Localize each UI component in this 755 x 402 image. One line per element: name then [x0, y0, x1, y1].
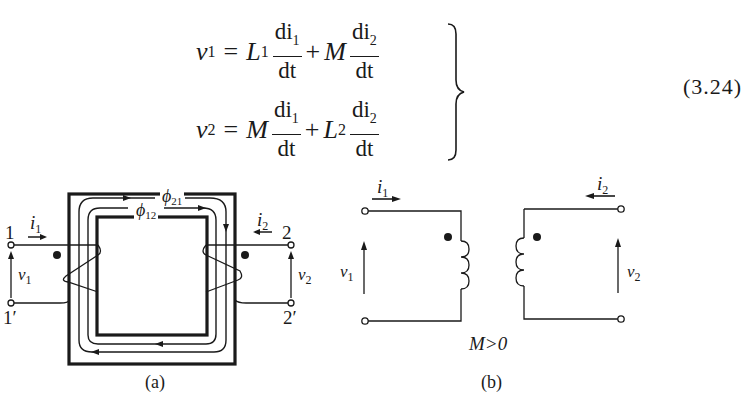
terminal-b1p-icon	[362, 318, 368, 324]
figure-a-caption: (a)	[145, 372, 165, 393]
terminal-b1-icon	[362, 208, 368, 214]
terminal-2-label: 2	[282, 222, 292, 244]
terminal-2p-label: 2′	[283, 307, 297, 329]
terminal-b2p-icon	[618, 316, 624, 322]
voltage-v1-label: v1	[18, 265, 32, 288]
flux-arrow-icon	[91, 349, 99, 355]
inductor-1-icon	[461, 241, 469, 289]
current-i2-label: i2	[257, 209, 268, 234]
current-i1-label: i1	[30, 212, 41, 237]
polarity-dot-icon	[53, 251, 61, 259]
terminal-1p-icon	[8, 300, 14, 306]
arrow-up-icon	[361, 241, 367, 250]
flux-arrow-icon	[223, 224, 229, 232]
current-i2-label-b: i2	[597, 173, 608, 198]
terminal-1-label: 1	[5, 222, 15, 244]
voltage-v2-label: v2	[298, 265, 312, 288]
polarity-dot-icon	[533, 233, 541, 241]
figure-b-caption: (b)	[481, 372, 502, 393]
terminal-2p-icon	[288, 300, 294, 306]
figure-a-diagram	[0, 0, 755, 402]
arrow-up-icon	[288, 251, 294, 259]
current-i1-label-b: i1	[377, 176, 388, 201]
flux-arrow-icon	[198, 205, 206, 211]
flux-arrow-icon	[155, 341, 163, 347]
arrow-up-icon	[8, 251, 14, 259]
core-inner-icon	[97, 217, 207, 335]
flux-phi12-label: ϕ12	[134, 200, 158, 221]
terminal-1p-label: 1′	[3, 307, 17, 329]
inductor-2-icon	[516, 238, 524, 286]
flux-arrow-icon	[123, 195, 131, 201]
arrow-right-icon	[392, 196, 401, 202]
arrow-left-icon	[585, 193, 594, 199]
voltage-v2-label-b: v2	[627, 262, 641, 285]
mutual-inductance-condition: M>0	[469, 333, 507, 355]
polarity-dot-icon	[444, 233, 452, 241]
voltage-v1-label-b: v1	[340, 262, 354, 285]
flux-phi21-label: ϕ21	[160, 186, 184, 207]
polarity-dot-icon	[241, 251, 249, 259]
arrow-up-icon	[615, 238, 621, 247]
terminal-b2-icon	[618, 206, 624, 212]
figure-b-diagram	[362, 196, 624, 324]
